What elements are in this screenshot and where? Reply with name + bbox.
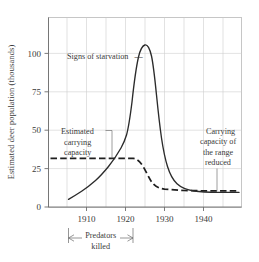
y-axis-ticks	[45, 53, 49, 207]
y-tick-label-25: 25	[32, 164, 42, 174]
y-tick-label-75: 75	[32, 87, 42, 97]
y-axis-title: Estimated deer population (thousands)	[7, 45, 16, 180]
vertical-gridlines	[67, 18, 223, 208]
y-tick-label-0: 0	[37, 202, 42, 212]
carrying-capacity-reduced-line-4: reduced	[205, 158, 231, 167]
signs-of-starvation-label: Signs of starvation	[67, 52, 128, 61]
y-tick-label-50: 50	[32, 125, 42, 135]
x-tick-label-1920: 1920	[117, 214, 136, 224]
x-tick-label-1930: 1930	[156, 214, 175, 224]
estimated-carrying-capacity-leader	[106, 131, 113, 159]
x-tick-label-1910: 1910	[78, 214, 97, 224]
carrying-capacity-reduced-line-1: Carrying	[206, 127, 235, 136]
estimated-carrying-capacity-line-3: capacity	[64, 148, 92, 157]
annotation-carrying-capacity-reduced: Carrying capacity of the range reduced	[200, 127, 236, 191]
annotation-predators-killed: Predators killed	[69, 228, 134, 251]
carrying-capacity-reduced-line-2: capacity of	[200, 137, 236, 146]
y-tick-label-100: 100	[28, 49, 42, 59]
deer-population-chart: 0 25 50 75 100 1910 1920 1930 1940 Estim…	[0, 0, 259, 262]
deer-population-curve	[69, 45, 240, 199]
x-tick-label-1940: 1940	[195, 214, 214, 224]
predators-killed-line-2: killed	[91, 242, 110, 251]
signs-of-starvation-dash: —	[134, 52, 144, 61]
predators-killed-line-1: Predators	[85, 231, 116, 240]
estimated-carrying-capacity-line-1: Estimated	[61, 127, 94, 136]
carrying-capacity-reduced-line-3: the range	[203, 148, 234, 157]
estimated-carrying-capacity-line-2: carrying	[64, 138, 91, 147]
annotation-estimated-carrying-capacity: Estimated carrying capacity	[61, 127, 112, 159]
